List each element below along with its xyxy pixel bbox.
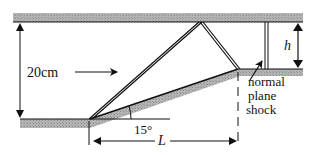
shock-label-line1: normal [248,74,285,89]
height-dimension-arrow [16,23,24,118]
length-label: L [157,133,166,148]
angle-label: 15° [134,122,152,137]
shock-label-line3: shock [246,102,277,117]
throat-height-label: h [284,38,291,53]
throat-height-dimension [293,23,303,68]
top-wall [13,13,303,22]
height-label: 20cm [27,65,58,80]
normal-shock [265,22,268,69]
shock-label-line2: plane [248,88,276,103]
oblique-shock-2 [200,22,240,69]
inlet-diagram: 20cm 15° L h normal plane shock [0,0,315,155]
